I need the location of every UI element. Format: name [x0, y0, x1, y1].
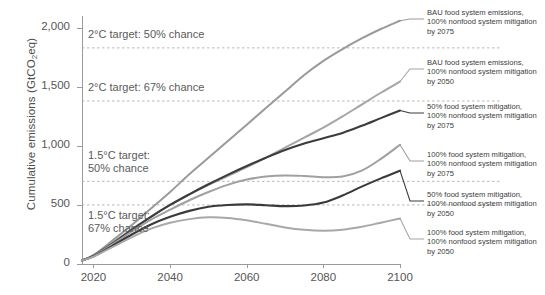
legend-leader-line — [400, 111, 424, 114]
legend-item-label-line1: BAU food system emissions, — [427, 58, 545, 67]
legend-item[interactable]: BAU food system emissions,100% nonfood s… — [427, 8, 545, 36]
legend-leader-line — [400, 19, 424, 21]
legend-item-label-line3: by 2050 — [427, 77, 545, 86]
legend-item[interactable]: 50% food system mitigation,100% nonfood … — [427, 190, 545, 218]
chart-root: Cumulative emissions (GtCO2eq) 05001,000… — [0, 0, 545, 295]
threshold-label: 1.5°C target: 50% chance — [88, 149, 150, 175]
threshold-label: 2°C target: 67% chance — [88, 81, 204, 94]
legend-item-label-line1: 100% food system mitigation, — [427, 150, 545, 159]
legend-item-label-line2: 100% nonfood system mitigation — [427, 67, 545, 76]
legend-item-label-line1: 100% food system mitigation, — [427, 228, 545, 237]
legend-item[interactable]: 50% food system mitigation,100% nonfood … — [427, 102, 545, 130]
legend-item-label-line1: 50% food system mitigation, — [427, 190, 545, 199]
legend-item-label-line1: 50% food system mitigation, — [427, 102, 545, 111]
threshold-label: 2°C target: 50% chance — [88, 28, 204, 41]
legend-item-label-line2: 100% nonfood system mitigation — [427, 199, 545, 208]
legend-item[interactable]: BAU food system emissions,100% nonfood s… — [427, 58, 545, 86]
legend-leader-line — [400, 171, 424, 201]
legend-item-label-line3: by 2050 — [427, 209, 545, 218]
legend-item-label-line1: BAU food system emissions, — [427, 8, 545, 17]
legend-item[interactable]: 100% food system mitigation,100% nonfood… — [427, 150, 545, 178]
legend-item-label-line2: 100% nonfood system mitigation — [427, 17, 545, 26]
legend-item-label-line3: by 2075 — [427, 27, 545, 36]
threshold-label: 1.5°C target: 67% chance — [88, 209, 150, 235]
legend-item-label-line2: 100% nonfood system mitigation — [427, 111, 545, 120]
legend-leader-line — [400, 145, 424, 161]
legend-item[interactable]: 100% food system mitigation,100% nonfood… — [427, 228, 545, 256]
legend-item-label-line3: by 2075 — [427, 169, 545, 178]
legend-item-label-line2: 100% nonfood system mitigation — [427, 237, 545, 246]
legend-item-label-line3: by 2050 — [427, 247, 545, 256]
legend-item-label-line3: by 2075 — [427, 121, 545, 130]
legend-leader-line — [400, 219, 424, 240]
legend-item-label-line2: 100% nonfood system mitigation — [427, 159, 545, 168]
legend-leader-lines — [400, 19, 424, 239]
legend-leader-line — [400, 69, 424, 82]
